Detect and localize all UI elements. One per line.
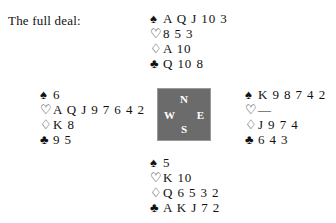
hand-south-spades: 5 <box>163 155 170 170</box>
heart-icon: ♡ <box>245 102 258 117</box>
hand-east-clubs-row: ♣ 6 4 3 <box>245 132 326 147</box>
hand-north-spades-row: ♠ A Q J 10 3 <box>150 11 228 26</box>
diamond-icon: ♢ <box>40 117 53 132</box>
hand-west-spades-row: ♠ 6 <box>40 87 145 102</box>
club-icon: ♣ <box>245 132 258 147</box>
hand-south-hearts-row: ♡ K 10 <box>150 170 220 185</box>
hand-west-diamonds: K 8 <box>53 117 75 132</box>
hand-west-hearts-row: ♡ A Q J 9 7 6 4 2 <box>40 102 145 117</box>
heart-icon: ♡ <box>150 26 163 41</box>
bridge-deal-diagram: The full deal: ♠ A Q J 10 3 ♡ 8 5 3 ♢ A … <box>0 0 336 223</box>
spade-icon: ♠ <box>40 87 53 102</box>
hand-west-hearts: A Q J 9 7 6 4 2 <box>53 102 145 117</box>
compass-label-east: E <box>197 109 204 120</box>
hand-south-clubs: A K J 7 2 <box>163 200 220 215</box>
club-icon: ♣ <box>150 200 163 215</box>
hand-south-diamonds: Q 6 5 3 2 <box>163 185 220 200</box>
hand-south-diamonds-row: ♢ Q 6 5 3 2 <box>150 185 220 200</box>
hand-west: ♠ 6 ♡ A Q J 9 7 6 4 2 ♢ K 8 ♣ 9 5 <box>40 87 145 147</box>
spade-icon: ♠ <box>245 87 258 102</box>
hand-east-clubs: 6 4 3 <box>258 132 289 147</box>
spade-icon: ♠ <box>150 155 163 170</box>
hand-east-hearts-row: ♡ — <box>245 102 326 117</box>
hand-south: ♠ 5 ♡ K 10 ♢ Q 6 5 3 2 ♣ A K J 7 2 <box>150 155 220 215</box>
hand-north-hearts-row: ♡ 8 5 3 <box>150 26 228 41</box>
heart-icon: ♡ <box>150 170 163 185</box>
caption-text: The full deal: <box>8 13 81 29</box>
diamond-icon: ♢ <box>245 117 258 132</box>
hand-north-diamonds: A 10 <box>163 41 192 56</box>
diamond-icon: ♢ <box>150 41 163 56</box>
club-icon: ♣ <box>40 132 53 147</box>
hand-west-spades: 6 <box>53 87 60 102</box>
compass-label-west: W <box>164 109 175 120</box>
club-icon: ♣ <box>150 56 163 71</box>
hand-north-clubs: Q 10 8 <box>163 56 204 71</box>
hand-north-diamonds-row: ♢ A 10 <box>150 41 228 56</box>
hand-west-diamonds-row: ♢ K 8 <box>40 117 145 132</box>
hand-north-hearts: 8 5 3 <box>163 26 194 41</box>
spade-icon: ♠ <box>150 11 163 26</box>
hand-east-diamonds-row: ♢ J 9 7 4 <box>245 117 326 132</box>
hand-north-spades: A Q J 10 3 <box>163 11 228 26</box>
hand-south-hearts: K 10 <box>163 170 192 185</box>
hand-east: ♠ K 9 8 7 4 2 ♡ — ♢ J 9 7 4 ♣ 6 4 3 <box>245 87 326 147</box>
heart-icon: ♡ <box>40 102 53 117</box>
hand-west-clubs: 9 5 <box>53 132 72 147</box>
hand-east-spades-row: ♠ K 9 8 7 4 2 <box>245 87 326 102</box>
compass-label-south: S <box>181 124 187 135</box>
hand-north: ♠ A Q J 10 3 ♡ 8 5 3 ♢ A 10 ♣ Q 10 8 <box>150 11 228 71</box>
hand-south-spades-row: ♠ 5 <box>150 155 220 170</box>
hand-north-clubs-row: ♣ Q 10 8 <box>150 56 228 71</box>
diamond-icon: ♢ <box>150 185 163 200</box>
hand-east-hearts: — <box>258 102 272 117</box>
hand-west-clubs-row: ♣ 9 5 <box>40 132 145 147</box>
compass-label-north: N <box>180 94 188 105</box>
hand-south-clubs-row: ♣ A K J 7 2 <box>150 200 220 215</box>
hand-east-diamonds: J 9 7 4 <box>258 117 299 132</box>
hand-east-spades: K 9 8 7 4 2 <box>258 87 326 102</box>
compass-box: N W E S <box>157 88 211 141</box>
